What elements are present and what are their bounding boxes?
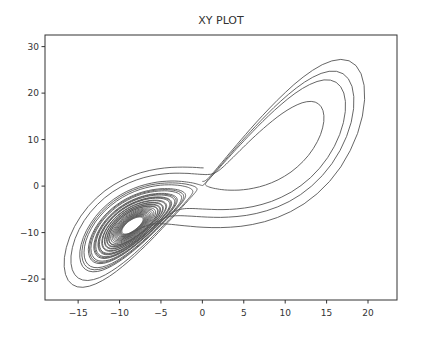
x-tick-label: 10: [279, 308, 291, 318]
x-axis-ticks: −15−10−505101520: [69, 300, 374, 318]
y-tick-label: −20: [20, 274, 39, 284]
trajectory-line: [64, 59, 364, 287]
chart-title: XY PLOT: [198, 14, 244, 27]
x-tick-label: 15: [321, 308, 332, 318]
x-tick-label: −5: [154, 308, 167, 318]
y-tick-label: 20: [28, 88, 40, 98]
x-tick-label: 20: [362, 308, 374, 318]
x-tick-label: 5: [241, 308, 247, 318]
x-tick-label: −10: [110, 308, 129, 318]
y-tick-label: 0: [33, 181, 39, 191]
y-tick-label: 10: [28, 135, 40, 145]
y-tick-label: −10: [20, 228, 39, 238]
plot-area: [64, 59, 364, 287]
x-tick-label: −15: [69, 308, 88, 318]
xy-plot-figure: XY PLOT −15−10−505101520 −20−100102030: [0, 0, 424, 340]
x-tick-label: 0: [199, 308, 205, 318]
y-axis-ticks: −20−100102030: [20, 42, 45, 284]
y-tick-label: 30: [28, 42, 40, 52]
